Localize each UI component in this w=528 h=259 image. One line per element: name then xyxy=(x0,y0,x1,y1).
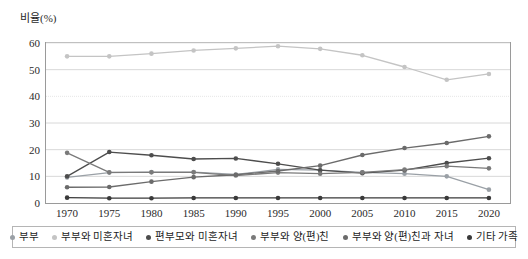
chart-canvas xyxy=(0,0,528,259)
x-tick-label: 2010 xyxy=(394,207,416,219)
legend-label: 기타 가족 xyxy=(476,232,519,243)
data-point xyxy=(318,163,323,168)
data-point xyxy=(234,46,239,51)
data-point xyxy=(487,134,492,139)
data-point xyxy=(444,196,449,201)
x-tick-label: 2005 xyxy=(351,207,373,219)
data-point xyxy=(487,156,492,161)
data-point xyxy=(444,174,449,179)
data-point xyxy=(107,196,112,201)
data-point xyxy=(318,171,323,176)
data-point xyxy=(149,196,154,201)
data-point xyxy=(487,187,492,192)
data-point xyxy=(65,151,70,156)
legend-label: 부부 xyxy=(19,232,39,243)
chart-container: 비율(%) 0102030405060 부부부부와 미혼자녀편부모와 미혼자녀부… xyxy=(0,0,528,259)
data-point xyxy=(149,170,154,175)
data-point xyxy=(149,51,154,56)
gridlines xyxy=(46,43,510,176)
data-point xyxy=(234,156,239,161)
data-point xyxy=(402,146,407,151)
x-tick-label: 1985 xyxy=(183,207,205,219)
data-point xyxy=(487,166,492,171)
data-point xyxy=(444,78,449,83)
data-point xyxy=(402,65,407,70)
legend-marker-icon xyxy=(146,235,151,240)
data-point xyxy=(65,174,70,179)
data-point xyxy=(276,44,281,49)
data-point xyxy=(276,162,281,167)
data-point xyxy=(360,170,365,175)
data-point xyxy=(65,54,70,59)
data-point xyxy=(487,72,492,77)
data-point xyxy=(234,196,239,201)
legend-label: 부부와 미혼자녀 xyxy=(61,232,134,243)
data-point xyxy=(318,196,323,201)
x-tick-label: 2015 xyxy=(436,207,458,219)
data-point xyxy=(107,170,112,175)
legend-item-1[interactable]: 부부와 미혼자녀 xyxy=(52,232,134,243)
legend-item-2[interactable]: 편부모와 미혼자녀 xyxy=(146,232,238,243)
data-point xyxy=(65,195,70,200)
data-point xyxy=(318,47,323,52)
legend-marker-icon xyxy=(251,235,256,240)
legend-item-4[interactable]: 부부와 양(편)친과 자녀 xyxy=(343,232,454,243)
data-point xyxy=(191,170,196,175)
data-point xyxy=(191,157,196,162)
x-tick-label: 2020 xyxy=(478,207,500,219)
data-point xyxy=(149,153,154,158)
data-point xyxy=(444,141,449,146)
data-point xyxy=(234,172,239,177)
data-point xyxy=(402,196,407,201)
chart-legend: 부부부부와 미혼자녀편부모와 미혼자녀부부와 양(편)친부부와 양(편)친과 자… xyxy=(12,226,516,248)
x-tick-label: 2000 xyxy=(309,207,331,219)
data-point xyxy=(191,48,196,53)
series-1 xyxy=(65,44,491,82)
legend-item-5[interactable]: 기타 가족 xyxy=(467,232,519,243)
data-point xyxy=(360,153,365,158)
legend-label: 부부와 양(편)친 xyxy=(260,232,330,243)
data-point xyxy=(65,185,70,190)
data-point xyxy=(149,179,154,184)
data-point xyxy=(444,164,449,169)
series-layer xyxy=(65,44,491,201)
legend-label: 편부모와 미혼자녀 xyxy=(155,232,238,243)
x-tick-label: 1980 xyxy=(140,207,162,219)
x-tick-label: 1975 xyxy=(98,207,120,219)
data-point xyxy=(487,196,492,201)
legend-marker-icon xyxy=(52,235,57,240)
series-line xyxy=(67,46,489,80)
legend-marker-icon xyxy=(343,235,348,240)
data-point xyxy=(276,196,281,201)
legend-label: 부부와 양(편)친과 자녀 xyxy=(352,232,454,243)
x-tick-label: 1970 xyxy=(56,207,78,219)
legend-marker-icon xyxy=(467,235,472,240)
x-tick-label: 1995 xyxy=(267,207,289,219)
x-tick-label: 1990 xyxy=(225,207,247,219)
data-point xyxy=(107,150,112,155)
data-point xyxy=(402,167,407,172)
legend-item-3[interactable]: 부부와 양(편)친 xyxy=(251,232,330,243)
data-point xyxy=(191,175,196,180)
data-point xyxy=(360,53,365,58)
legend-item-0[interactable]: 부부 xyxy=(10,232,39,243)
data-point xyxy=(276,169,281,174)
legend-marker-icon xyxy=(10,235,15,240)
data-point xyxy=(360,196,365,201)
data-point xyxy=(191,196,196,201)
series-5 xyxy=(65,195,491,200)
data-point xyxy=(107,185,112,190)
data-point xyxy=(107,54,112,59)
